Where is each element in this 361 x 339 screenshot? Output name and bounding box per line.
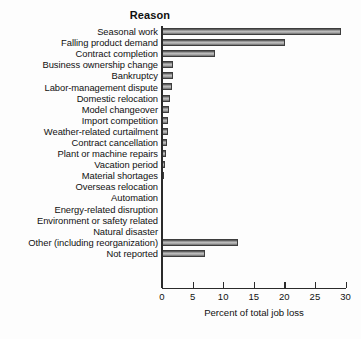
bar [161, 61, 173, 68]
category-label: Automation [0, 192, 161, 203]
bar-track [161, 248, 361, 259]
x-tick-label: 5 [190, 291, 195, 302]
bar-track [161, 148, 361, 159]
x-tick [193, 282, 194, 288]
bar-row: Not reported [0, 248, 361, 259]
bar-track [161, 93, 361, 104]
bar-track [161, 192, 361, 203]
x-tick-label: 20 [279, 291, 290, 302]
chart-title: Reason [0, 9, 300, 21]
bar-track [161, 170, 361, 181]
bar-row: Seasonal work [0, 26, 361, 37]
bar-row: Contract completion [0, 48, 361, 59]
x-tick-label: 0 [159, 291, 164, 302]
category-label: Seasonal work [0, 26, 161, 37]
bar-track [161, 81, 361, 92]
category-label: Falling product demand [0, 37, 161, 48]
x-tick [254, 282, 255, 288]
bar-row: Weather-related curtailment [0, 126, 361, 137]
x-tick [315, 282, 316, 288]
bar [161, 239, 238, 246]
category-label: Bankruptcy [0, 70, 161, 81]
category-label: Environment or safety related [0, 215, 161, 226]
bar-track [161, 48, 361, 59]
bar-row: Natural disaster [0, 226, 361, 237]
x-tick [346, 282, 347, 288]
bar-row: Energy-related disruption [0, 204, 361, 215]
category-label: Contract completion [0, 48, 161, 59]
bar [161, 28, 341, 35]
bar-row: Overseas relocation [0, 181, 361, 192]
bar-row: Automation [0, 192, 361, 203]
bar-track [161, 115, 361, 126]
bar-track [161, 104, 361, 115]
bar-track [161, 204, 361, 215]
bar-track [161, 37, 361, 48]
bar-track [161, 237, 361, 248]
category-label: Model changeover [0, 104, 161, 115]
category-label: Other (including reorganization) [0, 237, 161, 248]
category-label: Natural disaster [0, 226, 161, 237]
x-tick-label: 30 [340, 291, 351, 302]
category-label: Plant or machine repairs [0, 148, 161, 159]
bar-row: Import competition [0, 115, 361, 126]
bar [161, 250, 205, 257]
category-label: Material shortages [0, 170, 161, 181]
category-label: Weather-related curtailment [0, 126, 161, 137]
category-label: Import competition [0, 115, 161, 126]
bar-row: Vacation period [0, 159, 361, 170]
bar-row: Other (including reorganization) [0, 237, 361, 248]
bar-track [161, 159, 361, 170]
bar-row: Material shortages [0, 170, 361, 181]
bar-track [161, 70, 361, 81]
x-tick-label: 10 [218, 291, 229, 302]
category-label: Business ownership change [0, 59, 161, 70]
bar-track [161, 26, 361, 37]
bar-track [161, 126, 361, 137]
bar-track [161, 226, 361, 237]
x-tick [162, 282, 163, 288]
x-tick-label: 25 [310, 291, 321, 302]
category-label: Vacation period [0, 159, 161, 170]
bar-row: Business ownership change [0, 59, 361, 70]
bar-row: Contract cancellation [0, 137, 361, 148]
x-tick-label: 15 [248, 291, 259, 302]
category-label: Not reported [0, 248, 161, 259]
bar-track [161, 181, 361, 192]
bar-row: Falling product demand [0, 37, 361, 48]
y-axis-baseline [161, 26, 162, 288]
category-label: Labor-management dispute [0, 82, 161, 93]
category-label: Overseas relocation [0, 181, 161, 192]
bar-track [161, 215, 361, 226]
x-tick [223, 282, 224, 288]
bar [161, 39, 285, 46]
x-axis-line [162, 288, 346, 289]
bar-chart: Reason Seasonal workFalling product dema… [0, 0, 361, 339]
x-tick [284, 282, 285, 288]
x-axis-label: Percent of total job loss [162, 307, 346, 318]
category-label: Energy-related disruption [0, 204, 161, 215]
bar-row: Bankruptcy [0, 70, 361, 81]
bar-row: Environment or safety related [0, 215, 361, 226]
bar-row: Model changeover [0, 104, 361, 115]
bar-row: Labor-management dispute [0, 81, 361, 92]
bar-track [161, 137, 361, 148]
category-label: Contract cancellation [0, 137, 161, 148]
bar-row: Plant or machine repairs [0, 148, 361, 159]
plot-area: Seasonal workFalling product demandContr… [0, 26, 361, 288]
bar-row: Domestic relocation [0, 93, 361, 104]
category-label: Domestic relocation [0, 93, 161, 104]
bar [161, 50, 215, 57]
bar-track [161, 59, 361, 70]
